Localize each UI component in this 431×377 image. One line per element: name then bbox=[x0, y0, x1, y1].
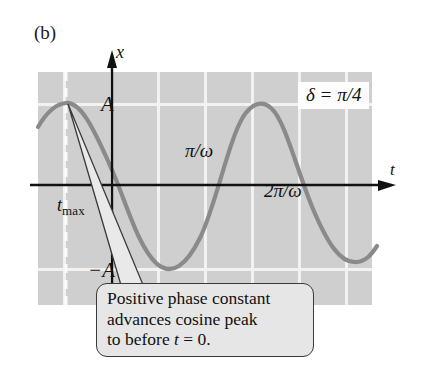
tmax-subscript: max bbox=[62, 203, 85, 218]
callout-line-3-suffix: = 0. bbox=[179, 329, 211, 349]
amplitude-negative-label: −A bbox=[88, 258, 115, 283]
callout-line-1: Positive phase constant bbox=[107, 288, 303, 309]
full-period-label: 2π/ω bbox=[264, 180, 302, 202]
x-axis-arrowhead bbox=[378, 180, 396, 191]
half-period-label: π/ω bbox=[185, 140, 213, 162]
callout-line-3-prefix: to before bbox=[107, 329, 174, 349]
callout-line-3: to before t = 0. bbox=[107, 329, 303, 350]
x-axis-label: t bbox=[390, 160, 395, 180]
figure-panel-b: (b) x t A −A tmax π/ω 2π/ω δ = π/4 bbox=[0, 0, 431, 377]
callout-line-2: advances cosine peak bbox=[107, 309, 303, 330]
tmax-label: tmax bbox=[57, 195, 85, 219]
y-axis-label: x bbox=[116, 42, 124, 63]
phase-constant-annotation: δ = π/4 bbox=[298, 82, 369, 109]
callout-box: Positive phase constant advances cosine … bbox=[96, 283, 314, 357]
amplitude-positive-label: A bbox=[101, 92, 114, 117]
